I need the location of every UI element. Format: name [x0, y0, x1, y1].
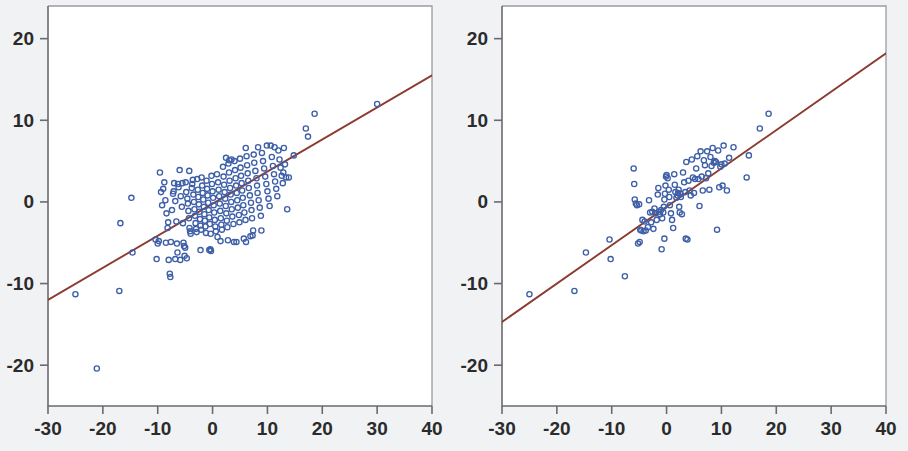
- x-axis-tick-label: 20: [312, 418, 333, 439]
- x-axis-tick-label: 40: [421, 418, 442, 439]
- x-axis-tick-label: 30: [821, 418, 842, 439]
- y-axis-tick-label: 10: [13, 110, 34, 131]
- x-axis-tick-label: -20: [89, 418, 116, 439]
- y-axis-tick-label: -10: [7, 273, 34, 294]
- scatter-plot-left-svg: 20100-10-20-30-20-10010203040: [0, 0, 454, 451]
- y-axis-tick-label: 10: [467, 110, 488, 131]
- y-axis-tick-label: -10: [461, 273, 488, 294]
- x-axis-tick-label: 30: [367, 418, 388, 439]
- y-axis-tick-label: 0: [23, 191, 34, 212]
- plot-background: [502, 6, 886, 406]
- figure-container: 20100-10-20-30-20-10010203040 20100-10-2…: [0, 0, 908, 451]
- scatter-plot-right-svg: 20100-10-20-30-20-10010203040: [454, 0, 908, 451]
- x-axis-tick-label: -30: [488, 418, 515, 439]
- x-axis-tick-label: -10: [144, 418, 171, 439]
- y-axis-tick-label: 20: [467, 28, 488, 49]
- x-axis-tick-label: 10: [257, 418, 278, 439]
- x-axis-tick-label: 10: [711, 418, 732, 439]
- x-axis-tick-label: -20: [543, 418, 570, 439]
- y-axis-tick-label: 20: [13, 28, 34, 49]
- x-axis-tick-label: 0: [661, 418, 672, 439]
- x-axis-tick-label: 0: [207, 418, 218, 439]
- y-axis-tick-label: -20: [7, 355, 34, 376]
- x-axis-tick-label: 20: [766, 418, 787, 439]
- x-axis-tick-label: 40: [875, 418, 896, 439]
- y-axis-tick-label: -20: [461, 355, 488, 376]
- y-axis-tick-label: 0: [477, 191, 488, 212]
- scatter-panel-left: 20100-10-20-30-20-10010203040: [0, 0, 454, 451]
- x-axis-tick-label: -10: [598, 418, 625, 439]
- x-axis-tick-label: -30: [34, 418, 61, 439]
- scatter-panel-right: 20100-10-20-30-20-10010203040: [454, 0, 908, 451]
